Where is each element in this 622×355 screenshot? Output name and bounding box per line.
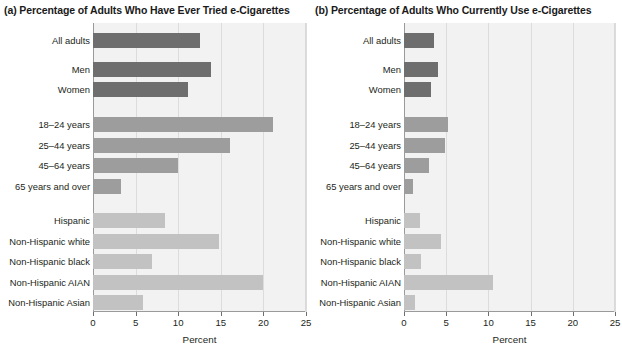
gridline [573,23,574,312]
panel-b-x-axis: 0510152025 [404,312,615,332]
x-tick-label: 25 [610,317,621,328]
x-tick-label: 10 [173,317,184,328]
x-tick [306,312,307,316]
x-tick [136,312,137,316]
bar [93,138,230,153]
category-label: 25–44 years [0,140,90,151]
bar [404,234,441,249]
bar [404,179,413,194]
category-label: Non-Hispanic black [311,256,401,267]
category-label: All adults [0,35,90,46]
bar [404,295,415,310]
category-label: Hispanic [0,215,90,226]
gridline [488,23,489,312]
bar [93,275,263,290]
x-tick-label: 25 [301,317,312,328]
x-tick-label: 5 [444,317,449,328]
panel-b-title: (b) Percentage of Adults Who Currently U… [315,4,592,16]
gridline [446,23,447,312]
x-tick [404,312,405,316]
category-label: Non-Hispanic Asian [311,297,401,308]
x-tick [446,312,447,316]
category-label: Non-Hispanic white [311,236,401,247]
gridline [615,23,616,312]
x-tick [573,312,574,316]
x-tick [221,312,222,316]
category-label: Men [311,64,401,75]
x-tick-label: 5 [133,317,138,328]
bar [404,213,420,228]
panel-a-x-axis: 0510152025 [93,312,306,332]
category-label: 65 years and over [0,181,90,192]
bar [404,254,421,269]
x-tick-label: 15 [215,317,226,328]
panel-a-x-axis-title: Percent [183,334,217,345]
x-tick [93,312,94,316]
category-label: Men [0,64,90,75]
x-tick-label: 20 [258,317,269,328]
bar [404,138,445,153]
bar [93,82,188,97]
x-tick [615,312,616,316]
panel-b-x-axis-title: Percent [493,334,527,345]
category-label: Non-Hispanic AIAN [311,277,401,288]
category-label: 65 years and over [311,181,401,192]
category-label: 45–64 years [311,160,401,171]
x-tick-label: 10 [483,317,494,328]
bar [93,62,211,77]
bar [93,234,219,249]
category-label: Women [0,84,90,95]
bar [404,82,431,97]
bar [404,275,493,290]
bar [93,254,152,269]
bar [93,33,200,48]
bar [93,179,121,194]
x-tick [178,312,179,316]
category-label: Hispanic [311,215,401,226]
x-tick-label: 0 [401,317,406,328]
panel-b: (b) Percentage of Adults Who Currently U… [311,0,622,355]
gridline [221,23,222,312]
x-tick-label: 0 [90,317,95,328]
x-tick [488,312,489,316]
panel-a: (a) Percentage of Adults Who Have Ever T… [0,0,311,355]
category-label: 18–24 years [311,119,401,130]
category-label: Non-Hispanic white [0,236,90,247]
x-tick [263,312,264,316]
gridline [306,23,307,312]
category-label: 25–44 years [311,140,401,151]
bar [93,213,165,228]
category-label: 18–24 years [0,119,90,130]
category-label: Non-Hispanic black [0,256,90,267]
bar [93,295,143,310]
bar [404,117,448,132]
bar [93,117,273,132]
category-label: All adults [311,35,401,46]
category-label: 45–64 years [0,160,90,171]
bar [404,62,438,77]
x-tick-label: 20 [567,317,578,328]
gridline [263,23,264,312]
x-tick [531,312,532,316]
bar [404,33,434,48]
category-label: Non-Hispanic Asian [0,297,90,308]
panel-a-title: (a) Percentage of Adults Who Have Ever T… [4,4,290,16]
bar [404,158,429,173]
category-label: Non-Hispanic AIAN [0,277,90,288]
category-label: Women [311,84,401,95]
gridline [531,23,532,312]
x-tick-label: 15 [525,317,536,328]
bar [93,158,178,173]
